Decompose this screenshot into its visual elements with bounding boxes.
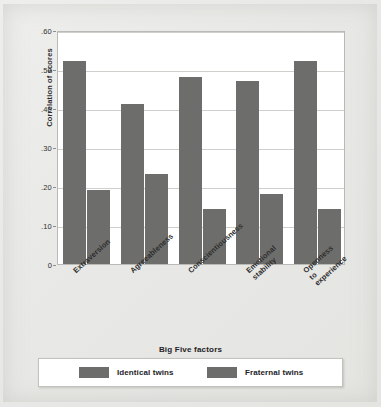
figure-panel: Correlation of scores .60.50.40.30.20.10… xyxy=(0,0,381,407)
y-tick-mark xyxy=(53,109,56,110)
y-tick-label: 0 xyxy=(18,261,52,270)
bar-identical xyxy=(294,61,317,264)
y-tick-label: .30 xyxy=(18,144,52,153)
legend-swatch-fraternal xyxy=(207,367,237,378)
legend-label-fraternal: Fraternal twins xyxy=(245,368,303,377)
y-tick-label: .50 xyxy=(18,66,52,75)
bar-identical xyxy=(179,77,202,264)
gridline xyxy=(58,32,344,33)
y-tick-mark xyxy=(53,70,56,71)
x-axis-title: Big Five factors xyxy=(0,345,381,354)
chart-legend: Identical twins Fraternal twins xyxy=(38,358,343,387)
bar-identical xyxy=(236,81,259,264)
y-tick-label: .40 xyxy=(18,105,52,114)
y-tick-mark xyxy=(53,265,56,266)
bar-identical xyxy=(121,104,144,264)
y-tick-mark xyxy=(53,226,56,227)
y-tick-mark xyxy=(53,187,56,188)
legend-label-identical: Identical twins xyxy=(117,368,174,377)
plot-area xyxy=(57,31,345,265)
y-tick-label: .10 xyxy=(18,222,52,231)
legend-entry-fraternal: Fraternal twins xyxy=(207,367,303,378)
y-tick-label: .20 xyxy=(18,183,52,192)
bar-identical xyxy=(63,61,86,264)
legend-swatch-identical xyxy=(79,367,109,378)
y-tick-label: .60 xyxy=(18,27,52,36)
legend-entry-identical: Identical twins xyxy=(79,367,174,378)
y-tick-mark xyxy=(53,148,56,149)
y-tick-mark xyxy=(53,31,56,32)
